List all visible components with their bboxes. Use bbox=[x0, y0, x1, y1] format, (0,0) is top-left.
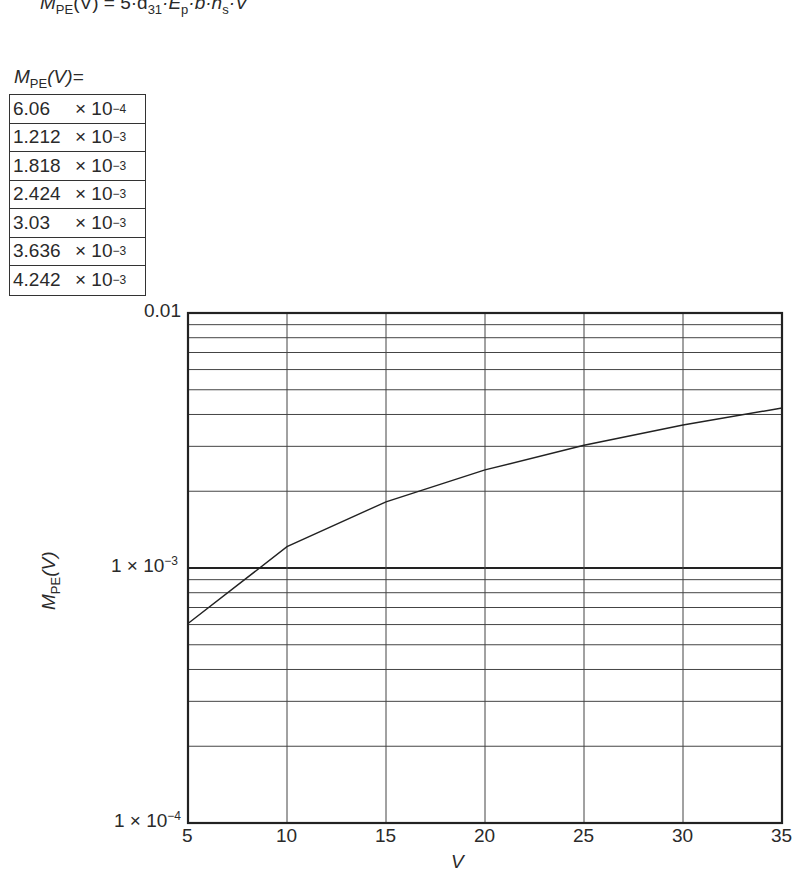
y-tick-label: 1 × 10−3 bbox=[111, 554, 178, 577]
x-tick-label: 25 bbox=[573, 825, 594, 847]
x-axis-label: V bbox=[451, 851, 464, 873]
x-tick-label: 35 bbox=[771, 825, 792, 847]
x-tick-label: 20 bbox=[474, 825, 495, 847]
x-tick-label: 10 bbox=[276, 825, 297, 847]
y-axis-label: MPE(V) bbox=[38, 552, 63, 611]
x-tick-label: 5 bbox=[182, 825, 193, 847]
y-tick-label: 1 × 10−4 bbox=[114, 809, 181, 832]
y-tick-label: 0.01 bbox=[144, 299, 181, 322]
x-tick-label: 30 bbox=[672, 825, 693, 847]
x-tick-label: 15 bbox=[375, 825, 396, 847]
